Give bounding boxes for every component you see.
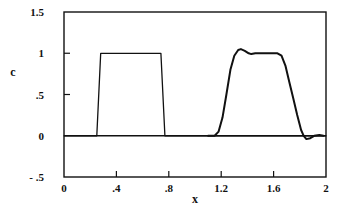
data-series [64,49,326,139]
x-tick-label: .4 [112,182,121,194]
line-chart: 0.4.81.21.62 1.51.50- .5 x c [0,0,341,212]
x-axis-label: x [192,192,198,206]
series-line-0 [64,53,326,136]
x-tick-label: 1.6 [267,182,281,194]
plot-frame [64,12,326,177]
x-tick-label: 1.2 [214,182,228,194]
y-tick-label: 0 [39,130,45,142]
y-axis-label: c [10,65,16,79]
y-tick-label: 1 [39,47,45,59]
x-tick-label: 2 [323,182,329,194]
y-tick-label: .5 [36,89,45,101]
x-axis-ticks: 0.4.81.21.62 [61,171,329,194]
plot-border [64,12,326,177]
y-tick-label: - .5 [29,171,44,183]
series-line-1 [208,49,323,139]
y-tick-label: 1.5 [30,6,44,18]
x-tick-label: 0 [61,182,67,194]
x-tick-label: .8 [165,182,174,194]
